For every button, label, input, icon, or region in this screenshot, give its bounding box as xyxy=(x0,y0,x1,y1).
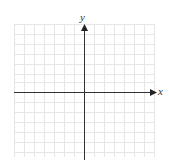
y-axis-arrow-icon xyxy=(81,24,88,31)
x-axis-arrow-icon xyxy=(150,89,157,96)
y-axis-label: y xyxy=(80,12,85,23)
x-axis-label: x xyxy=(158,86,163,97)
coordinate-grid xyxy=(0,0,169,162)
x-axis xyxy=(14,89,157,96)
